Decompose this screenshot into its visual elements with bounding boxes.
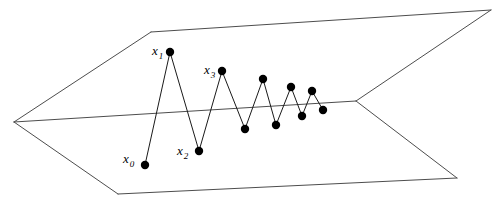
label-x0-subscript: 0 — [130, 159, 135, 169]
iterate-dot-1 — [166, 48, 174, 56]
label-x0: x0 — [122, 151, 135, 169]
upper-left-edge — [14, 32, 151, 122]
iterate-dot-2 — [195, 147, 203, 155]
iterate-dot-8 — [298, 112, 306, 120]
lower-bottom-edge — [118, 178, 457, 194]
label-x3-subscript: 3 — [210, 70, 216, 80]
label-x3: x3 — [203, 62, 216, 80]
label-x2-base: x — [176, 143, 183, 158]
label-x1-subscript: 1 — [159, 51, 164, 61]
iterate-dot-6 — [272, 121, 280, 129]
iterate-dot-0 — [141, 161, 149, 169]
iterate-dot-10 — [319, 106, 327, 114]
iterate-dot-5 — [259, 75, 267, 83]
iterate-dot-7 — [287, 83, 295, 91]
upper-right-edge — [356, 10, 491, 101]
iterate-dot-9 — [308, 87, 316, 95]
plane-group — [14, 10, 491, 194]
zigzag-convergence-diagram: x0x1x2x3 — [0, 0, 502, 213]
iterate-dot-3 — [218, 67, 226, 75]
figure-container: x0x1x2x3 — [0, 0, 502, 213]
lower-right-edge — [356, 101, 457, 178]
label-x2: x2 — [176, 143, 189, 161]
upper-top-edge — [151, 10, 491, 32]
iterate-dot-4 — [241, 125, 249, 133]
lower-left-edge — [14, 122, 118, 194]
label-x1-base: x — [151, 43, 158, 58]
label-x1: x1 — [151, 43, 163, 61]
label-x2-subscript: 2 — [184, 151, 189, 161]
label-x0-base: x — [122, 151, 129, 166]
label-x3-base: x — [203, 62, 210, 77]
